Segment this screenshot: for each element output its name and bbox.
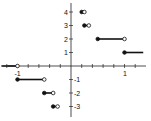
y-tick-label: 1: [64, 49, 68, 56]
open-endpoint: [16, 64, 20, 68]
y-tick-label: -1: [74, 76, 80, 83]
x-tick-label: 1: [123, 70, 127, 77]
x-tick-label: -1: [15, 70, 21, 77]
y-tick-label: -2: [74, 90, 80, 97]
open-endpoint: [51, 91, 55, 95]
closed-endpoint: [16, 78, 20, 82]
open-endpoint: [83, 10, 87, 14]
y-tick-label: 2: [64, 36, 68, 43]
step-function-chart: -114321-1-2-3: [0, 0, 151, 121]
open-endpoint: [87, 24, 91, 28]
closed-endpoint: [42, 91, 46, 95]
y-tick-label: 4: [64, 9, 68, 16]
closed-endpoint: [123, 51, 127, 55]
open-endpoint: [56, 105, 60, 109]
y-tick-label: -3: [74, 103, 80, 110]
open-endpoint: [123, 37, 127, 41]
open-endpoint: [42, 78, 46, 82]
y-tick-label: 3: [64, 22, 68, 29]
closed-endpoint: [83, 24, 87, 28]
closed-endpoint: [51, 105, 55, 109]
closed-endpoint: [96, 37, 100, 41]
